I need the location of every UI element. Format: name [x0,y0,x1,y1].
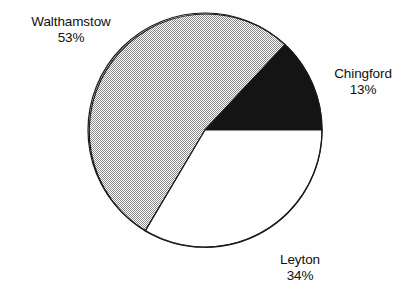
pie-label-walthamstow-value: 53% [12,30,130,46]
pie-label-leyton-value: 34% [262,268,338,284]
pie-label-leyton-name: Leyton [262,252,338,268]
pie-label-leyton: Leyton 34% [262,252,338,284]
pie-label-chingford-value: 13% [325,82,401,98]
pie-label-chingford: Chingford 13% [325,66,401,98]
pie-label-walthamstow-name: Walthamstow [12,14,130,30]
chart-page: Walthamstow 53% Chingford 13% Leyton 34% [0,0,405,291]
pie-label-chingford-name: Chingford [325,66,401,82]
pie-label-walthamstow: Walthamstow 53% [12,14,130,46]
